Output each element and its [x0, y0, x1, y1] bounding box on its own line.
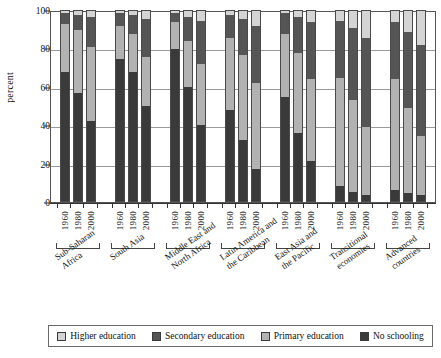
segment-secondary-education — [391, 22, 399, 79]
stacked-bar-chart: percent 020406080100 196019802000Sub-Sah… — [0, 0, 441, 358]
bar-sub-saharan-africa-1980[interactable] — [73, 10, 83, 202]
legend-swatch-icon — [360, 332, 369, 341]
x-tick-label-1960: 1960 — [225, 211, 235, 230]
legend-item-higher-education[interactable]: Higher education — [57, 331, 136, 341]
segment-no-schooling — [417, 195, 425, 201]
group-label-sub-saharan-africa: Sub-Saharan Africa — [53, 228, 103, 272]
x-tick-label-2000: 2000 — [141, 211, 151, 230]
segment-no-schooling — [61, 72, 69, 201]
x-tick-mark — [332, 203, 333, 208]
segment-primary-education — [417, 136, 425, 195]
x-tick-label-1960: 1960 — [115, 211, 125, 230]
segment-no-schooling — [184, 87, 192, 201]
segment-higher-education — [349, 11, 357, 28]
x-tick-label-1960: 1960 — [280, 211, 290, 230]
legend-label: No schooling — [373, 331, 424, 341]
x-tick-label-1980: 1980 — [293, 211, 303, 230]
x-tick-mark — [138, 203, 139, 208]
legend-item-secondary-education[interactable]: Secondary education — [152, 331, 244, 341]
x-tick-label-1960: 1960 — [170, 211, 180, 230]
legend-swatch-icon — [57, 332, 66, 341]
x-tick-label-1980: 1980 — [348, 211, 358, 230]
segment-no-schooling — [307, 161, 315, 201]
x-tick-label-1960: 1960 — [390, 211, 400, 230]
segment-higher-education — [336, 11, 344, 21]
x-tick-mark — [303, 203, 304, 208]
segment-no-schooling — [142, 106, 150, 201]
segment-higher-education — [417, 11, 425, 45]
segment-primary-education — [281, 34, 289, 97]
segment-primary-education — [239, 55, 247, 141]
segment-primary-education — [349, 100, 357, 191]
segment-no-schooling — [362, 195, 370, 201]
segment-no-schooling — [252, 169, 260, 201]
segment-secondary-education — [226, 15, 234, 38]
segment-secondary-education — [171, 13, 179, 23]
bars-layer — [51, 12, 435, 202]
bar-south-asia-2000[interactable] — [141, 10, 151, 202]
x-tick-label-2000: 2000 — [361, 211, 371, 230]
segment-primary-education — [129, 34, 137, 72]
x-tick-mark — [387, 203, 388, 208]
x-tick-label-1980: 1980 — [128, 211, 138, 230]
x-tick-mark — [112, 203, 113, 208]
segment-no-schooling — [281, 97, 289, 202]
legend-label: Higher education — [70, 331, 136, 341]
bar-advanced-countries-1980[interactable] — [403, 10, 413, 202]
segment-no-schooling — [226, 110, 234, 201]
bar-east-asia-and-the-pacific-1980[interactable] — [293, 10, 303, 202]
bar-south-asia-1980[interactable] — [128, 10, 138, 202]
bar-east-asia-and-the-pacific-1960[interactable] — [280, 10, 290, 202]
x-tick-mark — [248, 203, 249, 208]
x-tick-mark — [70, 203, 71, 208]
bar-latin-america-and-the-caribbean-1960[interactable] — [225, 10, 235, 202]
x-tick-label-1980: 1980 — [238, 211, 248, 230]
segment-secondary-education — [61, 13, 69, 24]
bar-middle-east-and-north-africa-1960[interactable] — [170, 10, 180, 202]
segment-secondary-education — [404, 32, 412, 108]
bar-advanced-countries-2000[interactable] — [416, 10, 426, 202]
x-tick-label-1980: 1980 — [73, 211, 83, 230]
segment-higher-education — [404, 11, 412, 32]
legend-swatch-icon — [152, 332, 161, 341]
x-tick-mark — [290, 203, 291, 208]
x-tick-label-1980: 1980 — [403, 211, 413, 230]
bar-transitional-economies-1960[interactable] — [335, 10, 345, 202]
x-tick-mark — [125, 203, 126, 208]
x-tick-mark — [427, 203, 428, 208]
bar-advanced-countries-1960[interactable] — [390, 10, 400, 202]
segment-higher-education — [391, 11, 399, 22]
legend-label: Secondary education — [165, 331, 244, 341]
bar-latin-america-and-the-caribbean-2000[interactable] — [251, 10, 261, 202]
bar-middle-east-and-north-africa-1980[interactable] — [183, 10, 193, 202]
bar-south-asia-1960[interactable] — [115, 10, 125, 202]
segment-primary-education — [252, 83, 260, 169]
segment-primary-education — [336, 78, 344, 186]
bar-sub-saharan-africa-2000[interactable] — [86, 10, 96, 202]
segment-primary-education — [61, 24, 69, 72]
segment-primary-education — [307, 79, 315, 161]
bar-latin-america-and-the-caribbean-1980[interactable] — [238, 10, 248, 202]
bar-transitional-economies-2000[interactable] — [361, 10, 371, 202]
segment-secondary-education — [307, 22, 315, 79]
x-tick-label-2000: 2000 — [416, 211, 426, 230]
y-axis: percent 020406080100 — [0, 0, 50, 215]
segment-primary-education — [294, 53, 302, 133]
bar-transitional-economies-1980[interactable] — [348, 10, 358, 202]
plot-area — [50, 11, 436, 203]
segment-primary-education — [226, 38, 234, 110]
segment-primary-education — [391, 79, 399, 189]
segment-primary-education — [197, 64, 205, 125]
x-tick-mark — [152, 203, 153, 208]
legend-item-primary-education[interactable]: Primary education — [261, 331, 344, 341]
segment-no-schooling — [391, 190, 399, 201]
segment-secondary-education — [417, 45, 425, 136]
legend-item-no-schooling[interactable]: No schooling — [360, 331, 424, 341]
x-tick-mark — [222, 203, 223, 208]
bar-east-asia-and-the-pacific-2000[interactable] — [306, 10, 316, 202]
segment-no-schooling — [129, 72, 137, 201]
bar-middle-east-and-north-africa-2000[interactable] — [196, 10, 206, 202]
legend-label: Primary education — [274, 331, 344, 341]
bar-sub-saharan-africa-1960[interactable] — [60, 10, 70, 202]
segment-primary-education — [87, 47, 95, 121]
